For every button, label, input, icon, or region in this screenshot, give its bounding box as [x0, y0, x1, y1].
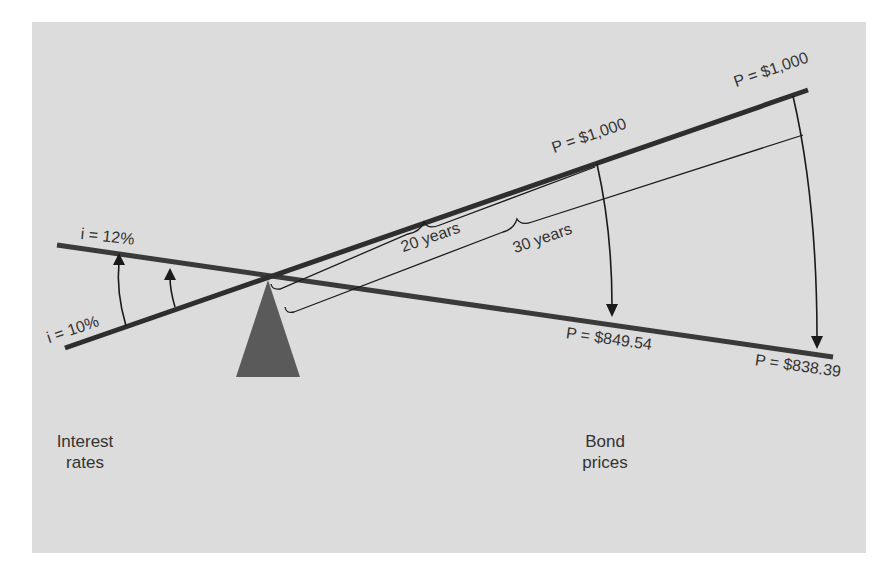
axis-label-bond-prices-line2: prices — [570, 452, 640, 473]
maturity-bracket-30-years — [285, 135, 803, 312]
rate-rise-arrow-outer-icon — [118, 262, 126, 326]
axis-label-interest-rates: Interest rates — [45, 431, 125, 474]
rate-line-10-percent — [65, 90, 808, 348]
fulcrum-triangle — [236, 280, 300, 377]
axis-label-interest-rates-line2: rates — [45, 452, 125, 473]
axis-label-bond-prices-line1: Bond — [570, 431, 640, 452]
price-drop-arrow-20-years-icon — [597, 164, 612, 306]
price-drop-arrow-30-years-icon — [793, 96, 817, 338]
axis-label-interest-rates-line1: Interest — [45, 431, 125, 452]
arrowhead-icon — [606, 304, 618, 317]
seesaw-diagram — [0, 0, 886, 576]
arrowhead-icon — [811, 336, 823, 349]
arrowhead-icon — [164, 268, 176, 280]
axis-label-bond-prices: Bond prices — [570, 431, 640, 474]
rate-rise-arrow-inner-icon — [170, 277, 175, 307]
